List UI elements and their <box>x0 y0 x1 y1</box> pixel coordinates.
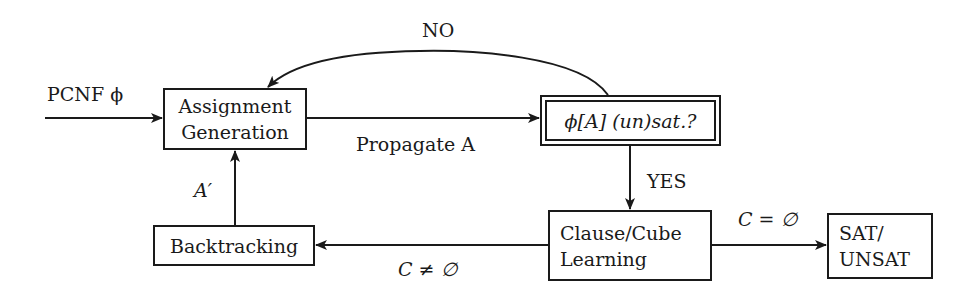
yes-label: YES <box>647 170 686 192</box>
assignment-generation-line2: Generation <box>181 119 289 145</box>
backtracking-label: Backtracking <box>170 233 298 259</box>
result-node: SAT/ UNSAT <box>827 213 933 279</box>
assignment-generation-node: Assignment Generation <box>163 88 307 150</box>
check-label: ϕ[A] (un)sat.? <box>565 108 697 134</box>
no-label: NO <box>422 19 454 41</box>
learning-node: Clause/Cube Learning <box>548 210 712 281</box>
result-line2: UNSAT <box>839 246 910 272</box>
c-empty-label: C = ∅ <box>738 208 798 230</box>
check-node: ϕ[A] (un)sat.? <box>540 95 721 146</box>
propagate-label: Propagate A <box>356 133 475 155</box>
result-line1: SAT/ <box>839 220 884 246</box>
a-prime-label: A′ <box>194 179 212 201</box>
c-not-empty-label: C ≠ ∅ <box>398 258 458 280</box>
learning-line1: Clause/Cube <box>560 220 682 246</box>
learning-line2: Learning <box>560 246 647 272</box>
backtracking-node: Backtracking <box>153 225 315 266</box>
no-arrow <box>268 51 608 95</box>
input-label: PCNF ϕ <box>47 83 123 105</box>
assignment-generation-line1: Assignment <box>179 93 292 119</box>
